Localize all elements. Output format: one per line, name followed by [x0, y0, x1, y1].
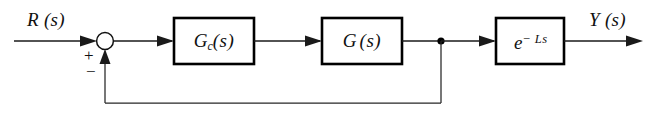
summing-junction [97, 33, 114, 50]
deadtime-exponent: − Ls [522, 32, 547, 46]
wire-sum-to-controller [113, 36, 174, 47]
plant-symbol: G [343, 30, 357, 51]
controller-symbol: G [194, 30, 208, 51]
output-label: Y (s) [589, 10, 626, 29]
plant-arg: (s) [360, 30, 382, 51]
controller-arg: (s) [213, 30, 235, 51]
block-label-controller: Gc(s) [174, 31, 254, 52]
wire-controller-to-plant [254, 36, 322, 47]
input-wire [14, 36, 97, 47]
input-label: R (s) [27, 10, 65, 29]
sum-minus-sign: − [86, 63, 96, 80]
wire-takeoff-to-deadtime [441, 36, 496, 47]
block-label-plant: G(s) [322, 31, 402, 50]
diagram-canvas [0, 0, 655, 121]
block-label-dead-time: e− Ls [514, 33, 547, 52]
block-diagram: R (s) Y (s) + − Gc(s) G(s) e− Ls [0, 0, 655, 121]
output-wire [564, 36, 643, 47]
